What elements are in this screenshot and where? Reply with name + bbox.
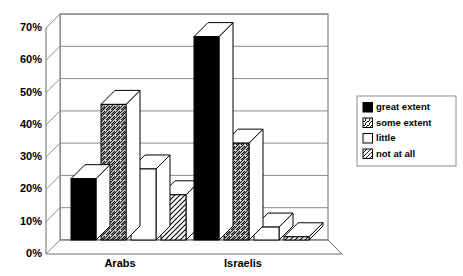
y-axis-labels: 70% 60% 50% 40% 30% 20% 10% 0% — [20, 21, 42, 259]
y-tick-label-40: 40% — [20, 118, 42, 130]
bar-front-face — [194, 37, 219, 240]
plot-left-wall — [46, 14, 60, 254]
legend-label-great-extent: great extent — [376, 101, 431, 112]
y-tick-label-0: 0% — [26, 247, 42, 259]
legend-item-little[interactable]: little — [363, 132, 396, 143]
y-tick-label-30: 30% — [20, 150, 42, 162]
plot-floor — [46, 240, 342, 254]
legend-item-not-at-all[interactable]: not at all — [363, 148, 415, 159]
bar-side-face — [219, 23, 233, 240]
legend-label-some-extent: some extent — [376, 117, 432, 128]
bar-israelis-great-extent — [194, 23, 233, 240]
category-label-israelis: Israelis — [224, 257, 262, 269]
y-tick-label-50: 50% — [20, 86, 42, 98]
bar-side-face — [156, 155, 170, 240]
y-tick-label-60: 60% — [20, 53, 42, 65]
legend-label-little: little — [376, 132, 396, 143]
bar-front-face — [71, 179, 96, 240]
category-label-arabs: Arabs — [104, 257, 135, 269]
x-axis-labels: Arabs Israelis — [104, 257, 262, 269]
bar-arabs-great-extent — [71, 165, 110, 240]
bar-side-face — [249, 129, 263, 240]
bar-chart: 70% 60% 50% 40% 30% 20% 10% 0% Arabs Isr… — [0, 0, 463, 276]
y-tick-label-10: 10% — [20, 215, 42, 227]
legend-swatch-not-at-all — [363, 149, 373, 159]
bar-front-face — [284, 237, 309, 240]
legend-swatch-great-extent — [363, 103, 373, 113]
legend-label-not-at-all: not at all — [376, 148, 415, 159]
legend: great extent some extent little not at a… — [357, 96, 456, 166]
legend-swatch-little — [363, 134, 373, 144]
y-tick-label-70: 70% — [20, 21, 42, 33]
y-tick-label-20: 20% — [20, 182, 42, 194]
chart-canvas: 70% 60% 50% 40% 30% 20% 10% 0% Arabs Isr… — [0, 0, 463, 276]
legend-swatch-some-extent — [363, 118, 373, 128]
bar-side-face — [126, 90, 140, 240]
